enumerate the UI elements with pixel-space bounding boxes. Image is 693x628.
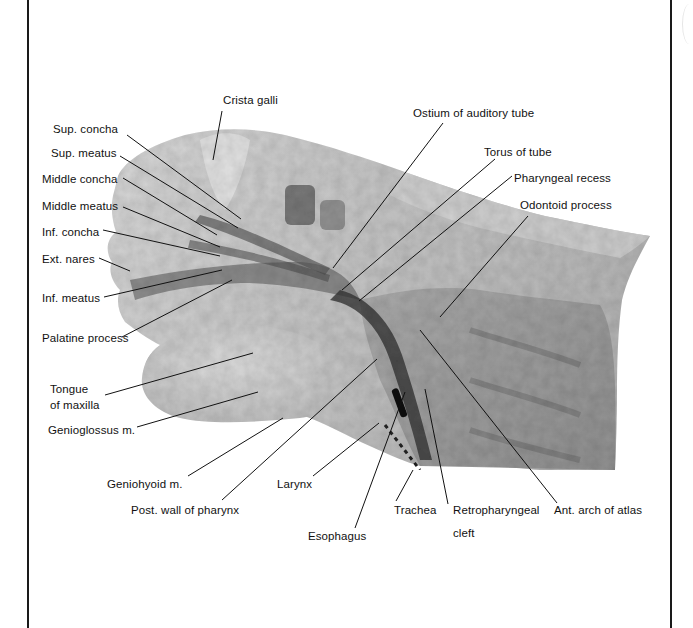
label-retropharyngeal: Retropharyngeal <box>453 503 540 517</box>
leader-trachea <box>396 470 413 501</box>
label-genioglossus: Genioglossus m. <box>48 423 135 437</box>
label-middle-concha: Middle concha <box>42 172 117 186</box>
label-ext-nares: Ext. nares <box>42 252 95 266</box>
label-middle-meatus: Middle meatus <box>42 199 118 213</box>
label-of-maxilla: of maxilla <box>50 398 100 412</box>
label-cleft: cleft <box>453 526 475 540</box>
label-inf-meatus: Inf. meatus <box>42 291 100 305</box>
label-larynx: Larynx <box>277 477 312 491</box>
label-sup-meatus: Sup. meatus <box>51 146 117 160</box>
label-geniohyoid: Geniohyoid m. <box>107 477 182 491</box>
label-esophagus: Esophagus <box>308 529 366 543</box>
label-palatine-process: Palatine process <box>42 331 129 345</box>
label-post-wall-pharynx: Post. wall of pharynx <box>131 503 239 517</box>
label-sup-concha: Sup. concha <box>53 122 118 136</box>
label-inf-concha: Inf. concha <box>42 225 99 239</box>
label-tongue: Tongue <box>50 382 88 396</box>
label-trachea: Trachea <box>394 503 436 517</box>
label-crista-galli: Crista galli <box>223 93 278 107</box>
label-ant-arch-atlas: Ant. arch of atlas <box>554 503 642 517</box>
label-ostium-auditory-tube: Ostium of auditory tube <box>413 106 534 120</box>
leader-geniohyoid <box>188 418 283 476</box>
label-odontoid-process: Odontoid process <box>520 198 612 212</box>
label-pharyngeal-recess: Pharyngeal recess <box>514 171 611 185</box>
label-torus-of-tube: Torus of tube <box>484 145 552 159</box>
